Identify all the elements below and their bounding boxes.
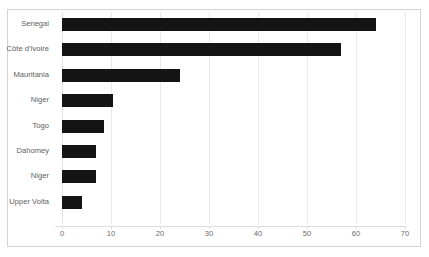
category-label-4: Togo [33, 119, 49, 132]
category-label-0: Senegal [21, 17, 49, 30]
bar-row: Côte d'Ivoire [55, 37, 405, 62]
bar-4 [62, 120, 104, 133]
gridline-70 [405, 12, 406, 224]
chart-screenshot: SenegalCôte d'IvoireMauritaniaNigerTogoD… [0, 0, 429, 257]
category-label-7: Upper Volta [9, 195, 49, 208]
chart-plot-area: SenegalCôte d'IvoireMauritaniaNigerTogoD… [55, 12, 405, 224]
bar-6 [62, 170, 96, 183]
tick-label-40: 40 [254, 229, 262, 238]
bar-2 [62, 69, 180, 82]
tick-label-0: 0 [60, 229, 64, 238]
bar-row: Niger [55, 164, 405, 189]
bar-row: Mauritania [55, 63, 405, 88]
bar-row: Niger [55, 88, 405, 113]
category-label-3: Niger [31, 93, 49, 106]
tick-label-50: 50 [303, 229, 311, 238]
x-axis-line [55, 226, 405, 227]
bar-1 [62, 43, 341, 56]
category-label-5: Dahomey [17, 144, 50, 157]
bar-row: Upper Volta [55, 190, 405, 215]
bar-row: Senegal [55, 12, 405, 37]
x-axis-tick-labels: 010203040506070 [55, 229, 405, 243]
category-label-6: Niger [31, 169, 49, 182]
tick-label-10: 10 [107, 229, 115, 238]
tick-label-20: 20 [156, 229, 164, 238]
bar-5 [62, 145, 96, 158]
bar-row: Dahomey [55, 139, 405, 164]
category-label-1: Côte d'Ivoire [7, 42, 49, 55]
bar-7 [62, 196, 82, 209]
bar-0 [62, 18, 376, 31]
bar-3 [62, 94, 113, 107]
category-label-2: Mauritania [14, 68, 49, 81]
bar-row: Togo [55, 114, 405, 139]
tick-label-60: 60 [352, 229, 360, 238]
tick-label-30: 30 [205, 229, 213, 238]
tick-label-70: 70 [401, 229, 409, 238]
